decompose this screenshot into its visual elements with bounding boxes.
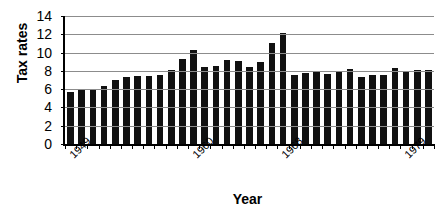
bar: [358, 77, 365, 144]
bar: [257, 62, 264, 144]
y-axis-tick-label: 14: [26, 9, 52, 23]
y-axis-tick-label: 8: [26, 64, 52, 78]
y-axis-tick-label: 10: [26, 46, 52, 60]
bar: [146, 76, 153, 144]
y-axis-tickmark: [61, 16, 65, 17]
gridline: [65, 89, 434, 90]
gridline: [65, 71, 434, 72]
y-axis-tick-label: 12: [26, 27, 52, 41]
x-axis-tickmark: [166, 144, 167, 149]
x-axis-tickmark: [244, 144, 245, 149]
y-axis-tickmark: [61, 144, 65, 145]
y-axis-tickmark: [61, 71, 65, 72]
bar: [190, 50, 197, 144]
y-axis-tick-label: 0: [26, 137, 52, 151]
x-axis-tickmark: [255, 144, 256, 149]
gridline: [65, 34, 434, 35]
x-axis-tickmark: [389, 144, 390, 149]
bar: [213, 66, 220, 144]
x-axis-tickmark: [110, 144, 111, 149]
x-axis-tickmark: [356, 144, 357, 149]
x-axis-tickmarks: [65, 144, 434, 149]
x-axis-tickmark: [143, 144, 144, 149]
x-axis-tickmark: [333, 144, 334, 149]
bar: [224, 60, 231, 144]
x-axis-title: Year: [63, 191, 432, 207]
bar: [101, 86, 108, 144]
y-axis-tickmark: [61, 53, 65, 54]
bar: [157, 75, 164, 144]
plot-area: [63, 16, 434, 146]
x-axis-tickmark: [345, 144, 346, 149]
x-axis-tickmark: [222, 144, 223, 149]
y-axis-tickmark: [61, 107, 65, 108]
bar: [90, 89, 97, 144]
gridline: [65, 126, 434, 127]
y-axis-tick-label: 2: [26, 119, 52, 133]
bar: [246, 67, 253, 144]
x-axis-tickmark: [400, 144, 401, 149]
x-axis-tickmark: [233, 144, 234, 149]
x-axis-tickmark: [188, 144, 189, 149]
x-axis-tickmark: [65, 144, 66, 149]
bar: [235, 61, 242, 144]
gridline: [65, 53, 434, 54]
x-axis-tickmark: [378, 144, 379, 149]
x-axis-tickmark: [121, 144, 122, 149]
y-axis-tickmark: [61, 126, 65, 127]
gridline: [65, 16, 434, 17]
bar: [291, 75, 298, 144]
x-axis-tickmark: [277, 144, 278, 149]
x-axis-tickmark: [311, 144, 312, 149]
y-axis-tick-label: 6: [26, 82, 52, 96]
x-axis-tickmark: [154, 144, 155, 149]
bar: [324, 74, 331, 144]
bar: [380, 75, 387, 144]
bar: [302, 73, 309, 144]
bar: [269, 43, 276, 144]
y-axis-tick-labels: 14121086420: [26, 0, 52, 215]
y-axis-tickmark: [61, 34, 65, 35]
bar: [134, 76, 141, 144]
bar: [369, 75, 376, 144]
bar: [392, 68, 399, 144]
x-axis-tickmark: [322, 144, 323, 149]
bar: [123, 77, 130, 144]
y-axis-tickmark: [61, 89, 65, 90]
x-axis-tickmark: [99, 144, 100, 149]
y-axis-tick-label: 4: [26, 100, 52, 114]
bar: [201, 67, 208, 144]
gridline: [65, 107, 434, 108]
x-axis-tickmark: [266, 144, 267, 149]
x-axis-tickmark: [177, 144, 178, 149]
x-axis-tickmark: [132, 144, 133, 149]
bar-chart: Tax rates 14121086420 1949196019681979 Y…: [0, 0, 437, 215]
x-axis-tickmark: [367, 144, 368, 149]
x-axis-tickmark: [434, 144, 435, 149]
bar: [67, 92, 74, 144]
